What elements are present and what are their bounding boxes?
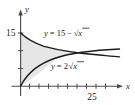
figure-container: 15 25 y x y=15−√x y=2√x	[0, 0, 135, 105]
plot-area: 15 25 y x y=15−√x y=2√x	[0, 0, 135, 105]
x-axis-arrow-icon	[117, 84, 123, 89]
lower-label-radicand: x	[72, 61, 77, 71]
y-axis-arrow-icon	[18, 10, 23, 16]
upper-label-eq: =	[50, 28, 55, 38]
lower-curve-label: y=2√x	[50, 61, 84, 71]
y-axis-label: y	[24, 4, 29, 14]
lower-label-lhs: y	[50, 61, 55, 71]
svg-text:y=15−√x: y=15−√x	[43, 28, 82, 38]
lower-label-eq: =	[57, 61, 62, 71]
x-tick-label-25: 25	[87, 92, 97, 102]
upper-label-minus: −	[67, 28, 72, 38]
lower-label-coefficient: 2	[64, 61, 68, 71]
upper-curve-label: y=15−√x	[43, 28, 89, 38]
y-tick-label-15: 15	[6, 28, 16, 38]
upper-label-radicand: x	[77, 28, 82, 38]
upper-label-constant: 15	[57, 28, 66, 38]
x-axis-label: x	[125, 81, 130, 91]
svg-text:y=2√x: y=2√x	[50, 61, 77, 71]
upper-label-lhs: y	[43, 28, 48, 38]
